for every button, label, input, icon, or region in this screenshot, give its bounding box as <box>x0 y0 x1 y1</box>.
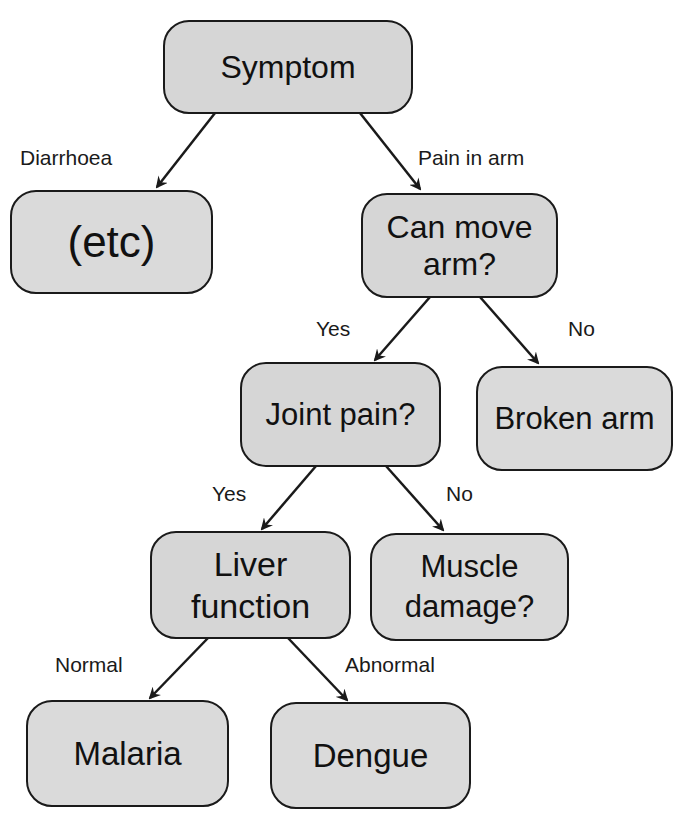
arrow-canmove-joint <box>375 297 430 360</box>
arrow-liver-malaria <box>150 638 208 698</box>
node-symptom: Symptom <box>163 20 413 114</box>
arrow-canmove-broken <box>480 297 538 363</box>
node-liver-function-line1: Liver <box>214 543 288 586</box>
edge-label-abnormal: Abnormal <box>345 653 435 677</box>
node-can-move-arm: Can move arm? <box>361 193 558 298</box>
edge-label-can-move-yes: Yes <box>316 317 350 341</box>
arrow-liver-dengue <box>288 638 347 700</box>
node-malaria: Malaria <box>26 700 229 807</box>
arrow-joint-muscle <box>386 466 443 530</box>
node-etc: (etc) <box>10 190 213 294</box>
node-broken-arm-label: Broken arm <box>494 401 654 437</box>
edge-label-joint-no: No <box>446 482 473 506</box>
node-liver-function-line2: function <box>191 585 310 628</box>
node-can-move-arm-line2: arm? <box>423 246 496 283</box>
arrow-joint-liver <box>262 466 316 529</box>
node-liver-function: Liver function <box>150 531 351 639</box>
edge-label-normal: Normal <box>55 653 123 677</box>
edge-label-diarrhoea: Diarrhoea <box>20 146 112 170</box>
node-can-move-arm-line1: Can move <box>387 209 533 246</box>
edge-label-joint-yes: Yes <box>212 482 246 506</box>
node-joint-pain-label: Joint pain? <box>266 397 416 433</box>
arrow-symptom-etc <box>157 113 215 187</box>
arrow-symptom-canmove <box>360 113 420 189</box>
node-muscle-damage: Muscle damage? <box>370 533 569 641</box>
node-muscle-damage-line1: Muscle <box>420 547 518 587</box>
node-dengue: Dengue <box>270 702 471 809</box>
node-dengue-label: Dengue <box>313 737 429 775</box>
node-malaria-label: Malaria <box>73 735 181 773</box>
node-etc-label: (etc) <box>68 217 156 268</box>
edge-label-pain-in-arm: Pain in arm <box>418 146 524 170</box>
edge-label-can-move-no: No <box>568 317 595 341</box>
node-muscle-damage-line2: damage? <box>405 587 534 627</box>
node-joint-pain: Joint pain? <box>240 362 441 467</box>
node-broken-arm: Broken arm <box>476 366 673 471</box>
node-symptom-label: Symptom <box>220 49 355 86</box>
